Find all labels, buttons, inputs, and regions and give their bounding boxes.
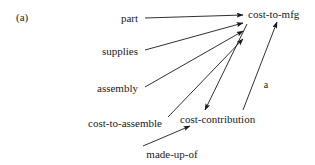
edge-label-cost-contribution-to-cost-to-mfg: a xyxy=(264,80,268,90)
node-cost-contribution: cost-contribution xyxy=(180,114,255,125)
edge-made-up-of-to-cost-contribution xyxy=(143,126,190,146)
edge-cost-to-mfg-to-cost-contribution xyxy=(205,24,247,110)
node-assembly: assembly xyxy=(97,83,138,94)
edge-supplies-to-cost-to-mfg xyxy=(145,23,243,50)
node-part: part xyxy=(121,13,138,24)
edge-cost-contribution-to-cost-to-mfg xyxy=(243,22,277,110)
edge-cost-to-assemble-to-cost-to-mfg xyxy=(168,39,243,117)
edge-assembly-to-cost-to-mfg xyxy=(145,31,243,87)
node-made-up-of: made-up-of xyxy=(146,149,197,160)
semantic-network-diagram: (a) apartsuppliesassemblycost-to-assembl… xyxy=(0,0,315,165)
edge-part-to-cost-to-mfg xyxy=(145,15,243,18)
node-supplies: supplies xyxy=(102,46,138,57)
node-cost-to-mfg: cost-to-mfg xyxy=(248,9,299,20)
node-cost-to-assemble: cost-to-assemble xyxy=(88,118,162,129)
